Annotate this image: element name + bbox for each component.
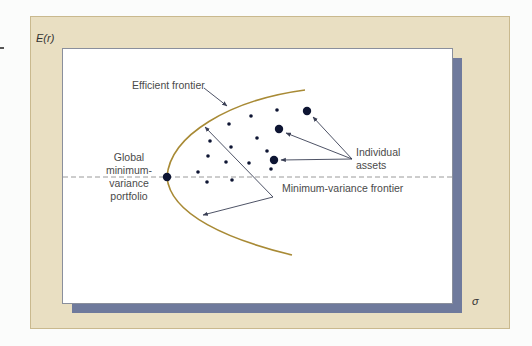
efficient-frontier-label: Efficient frontier bbox=[132, 79, 205, 92]
gmv-label-line4: portfolio bbox=[100, 190, 158, 203]
gmv-label-line1: Global bbox=[100, 151, 158, 164]
individual-assets-label-line2: assets bbox=[356, 159, 386, 172]
gmv-label-line2: minimum- bbox=[100, 164, 158, 177]
annotation-arrows bbox=[203, 88, 352, 215]
gmv-label-line3: variance bbox=[100, 177, 158, 190]
individual-assets-label-line1: Individual bbox=[356, 146, 400, 159]
min-variance-frontier-label: Minimum-variance frontier bbox=[282, 182, 403, 195]
min-variance-frontier-curve bbox=[167, 90, 305, 255]
asset-dots bbox=[163, 107, 311, 184]
diagram-graphics bbox=[0, 0, 532, 346]
gmv-label: Global minimum- variance portfolio bbox=[100, 151, 158, 203]
